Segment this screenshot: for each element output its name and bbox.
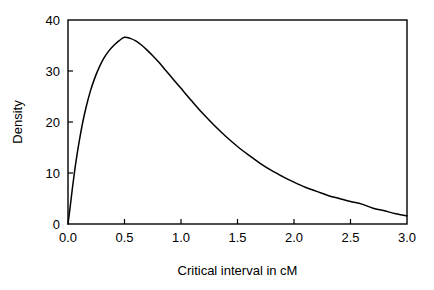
y-tick-label: 10 xyxy=(46,166,60,181)
figure-container: 0.00.51.01.52.02.53.0 010203040 Critical… xyxy=(0,0,434,290)
x-tick-label: 3.0 xyxy=(398,230,416,245)
x-tick-label: 1.5 xyxy=(228,230,246,245)
y-tick-label: 0 xyxy=(53,217,60,232)
y-tick-label: 20 xyxy=(46,115,60,130)
y-tick-label: 30 xyxy=(46,64,60,79)
x-tick-label: 0.0 xyxy=(59,230,77,245)
y-tick-label: 40 xyxy=(46,13,60,28)
x-tick-label: 2.5 xyxy=(341,230,359,245)
x-tick-label: 0.5 xyxy=(115,230,133,245)
x-axis-title: Critical interval in cM xyxy=(178,263,298,278)
density-line-chart: 0.00.51.01.52.02.53.0 010203040 Critical… xyxy=(0,0,434,290)
chart-background xyxy=(0,0,434,290)
x-tick-label: 2.0 xyxy=(285,230,303,245)
x-tick-label: 1.0 xyxy=(172,230,190,245)
y-axis-title: Density xyxy=(10,100,25,144)
